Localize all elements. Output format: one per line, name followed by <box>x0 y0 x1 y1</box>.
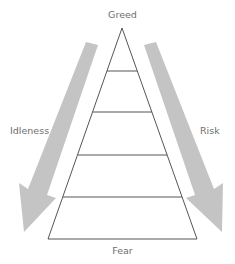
risk-label: Risk <box>200 125 220 136</box>
idleness-label: Idleness <box>10 125 49 136</box>
fear-label: Fear <box>0 245 235 256</box>
greed-label: Greed <box>0 9 235 20</box>
